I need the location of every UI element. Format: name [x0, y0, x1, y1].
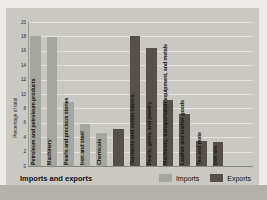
bar-label: Machinery, transportation equipment, and… [162, 44, 168, 165]
gridline [28, 36, 253, 37]
bar-label: Pearls, gems, and jewelry [146, 102, 152, 165]
y-tick-label: 10 [12, 92, 26, 97]
plot-area: 02468101214161820Petroleum and petroleum… [6, 8, 259, 185]
gridline [28, 94, 253, 95]
y-tick-label: 18 [12, 34, 26, 39]
bar-label: Machinery [46, 139, 52, 165]
gridline [28, 123, 253, 124]
bar-label: Iron ore [212, 146, 218, 165]
bar-label: Garments and cotton fabrics [129, 94, 135, 165]
y-tick-label: 12 [12, 77, 26, 82]
bar-label: Petroleum and petroleum products [30, 79, 36, 165]
exports-legend-label: Exports [227, 175, 251, 182]
y-tick-label: 16 [12, 48, 26, 53]
gridline [28, 22, 253, 23]
gridline [28, 65, 253, 66]
y-axis-line [28, 22, 29, 166]
y-tick-label: 20 [12, 20, 26, 25]
exports-legend-swatch [210, 174, 223, 182]
bar-label: Chemicals [96, 139, 102, 165]
y-tick-label: 14 [12, 63, 26, 68]
gridline [28, 80, 253, 81]
y-axis-title: Percentage of total [13, 98, 19, 138]
bar [113, 129, 124, 166]
y-tick-label: 0 [12, 164, 26, 169]
imports-legend-swatch [159, 174, 172, 182]
bar-label: Leather and leather goods [179, 100, 185, 165]
bar-label: Iron and steel [79, 131, 85, 165]
gridline [28, 51, 253, 52]
imports-legend-label: Imports [176, 175, 199, 182]
chart-panel: 02468101214161820Petroleum and petroleum… [6, 8, 259, 185]
x-axis-line [28, 166, 253, 167]
gridline [28, 137, 253, 138]
bar-label: Tea and mate [196, 132, 202, 165]
legend: Imports Exports [159, 174, 251, 182]
chart-title: Imports and exports [20, 174, 92, 183]
gridline [28, 108, 253, 109]
y-tick-label: 2 [12, 149, 26, 154]
bar-label: Pearls and precious stones [63, 97, 69, 165]
bottom-band [0, 185, 267, 200]
